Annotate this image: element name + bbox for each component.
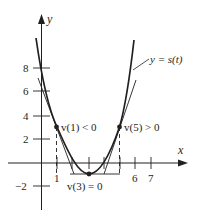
y-axis-arrow-icon: [38, 14, 45, 24]
x-tick-label-7: 7: [148, 172, 154, 184]
y-axis: 8 6 4 2 −2 y: [15, 12, 53, 210]
position-velocity-diagram: 1 6 7 x 8 6 4 2 −2 y y = s(t) v(1) < 0: [0, 0, 197, 219]
point-t3: [87, 172, 92, 177]
x-tick-label-1: 1: [54, 172, 60, 184]
y-tick-label-2: 2: [23, 133, 29, 145]
annotation-v5: v(5) > 0: [124, 121, 160, 134]
position-curve: [36, 38, 134, 174]
point-t1: [54, 125, 59, 130]
annotation-v3: v(3) = 0: [67, 180, 103, 193]
x-axis-label: x: [177, 143, 184, 157]
y-axis-label: y: [46, 12, 53, 26]
point-t5: [117, 125, 122, 130]
curve-label-leader: [133, 59, 149, 70]
y-tick-label-neg2: −2: [15, 180, 27, 192]
y-tick-label-4: 4: [23, 110, 29, 122]
y-tick-label-8: 8: [23, 62, 29, 74]
annotation-v1: v(1) < 0: [61, 121, 97, 134]
curve-label: y = s(t): [149, 53, 183, 66]
x-axis-arrow-icon: [178, 160, 188, 167]
y-tick-label-6: 6: [23, 85, 29, 97]
x-tick-label-6: 6: [132, 172, 138, 184]
x-axis: 1 6 7 x: [8, 143, 188, 184]
